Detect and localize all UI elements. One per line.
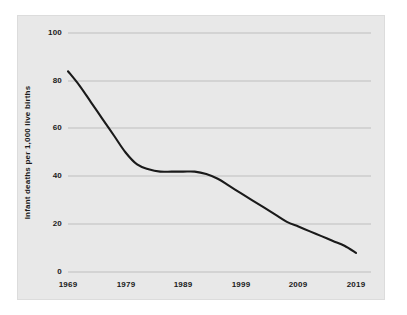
- y-tick-label-80: 80: [36, 76, 62, 85]
- x-tick-label-1989: 1989: [163, 280, 203, 289]
- chart-figure: 100 80 60 40 20 0 1969 1979 1989 1999 20…: [0, 0, 407, 315]
- data-series-line: [68, 71, 356, 253]
- gridlines: [68, 33, 371, 272]
- y-tick-label-20: 20: [36, 219, 62, 228]
- y-tick-label-60: 60: [36, 123, 62, 132]
- x-tick-label-2019: 2019: [336, 280, 376, 289]
- x-tick-label-1999: 1999: [221, 280, 261, 289]
- y-tick-label-0: 0: [36, 267, 62, 276]
- x-tick-label-1969: 1969: [48, 280, 88, 289]
- y-tick-label-40: 40: [36, 171, 62, 180]
- y-axis-title: Infant deaths per 1,000 live births: [23, 78, 32, 228]
- y-tick-label-100: 100: [36, 28, 62, 37]
- x-tick-label-1979: 1979: [106, 280, 146, 289]
- x-tick-label-2009: 2009: [278, 280, 318, 289]
